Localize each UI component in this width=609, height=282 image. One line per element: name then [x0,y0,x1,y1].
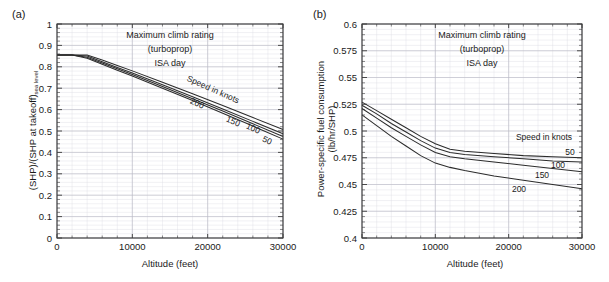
y-tick-label: 0.1 [39,211,52,222]
y-axis-title-b: Power-specific fuel consumption (lb/hr/S… [315,29,337,229]
x-tick-label: 20000 [495,241,521,252]
y-tick-label: 0.5 [39,126,52,137]
y-tick-label: 0.55 [339,72,358,83]
y-tick-label: 0.4 [39,147,52,158]
chart-annotation: ISA day [154,58,186,68]
series-label-150: 150 [535,170,549,180]
y-axis-title-a-subscript: sea level [33,71,39,95]
series-label-100: 100 [551,160,565,170]
x-tick-label: 20000 [194,241,220,252]
chart-panel-a: (a) Maximum climb rating(turboprop)ISA d… [0,0,305,282]
x-axis-title-a: Altitude (feet) [57,258,283,269]
series-label-50: 50 [565,147,575,157]
x-tick-label: 30000 [569,241,595,252]
y-tick-label: 0.45 [339,179,358,190]
y-tick-label: 0.6 [39,104,52,115]
x-tick-label: 10000 [422,241,448,252]
y-axis-title-b-line2: (lb/hr/SHP) [326,29,337,229]
chart-annotation: (turboprop) [460,44,505,54]
y-tick-label: 0.7 [39,83,52,94]
y-tick-label: 0.3 [39,168,52,179]
series-label-100: 100 [245,121,262,136]
y-tick-label: 1 [47,19,52,30]
y-tick-label: 0.6 [344,19,357,30]
y-tick-label: 0.2 [39,190,52,201]
x-tick-label: 10000 [119,241,145,252]
y-tick-label: 0.9 [39,40,52,51]
x-tick-label: 0 [54,241,59,252]
x-axis-title-b: Altitude (feet) [362,258,588,269]
y-axis-title-a: (SHP)/(SHP at takeoff)sea level [27,35,40,225]
chart-annotation: Maximum climb rating [126,30,214,40]
y-axis-title-b-line1: Power-specific fuel consumption [315,29,326,229]
x-tick-label: 30000 [270,241,296,252]
y-tick-label: 0.5 [344,126,357,137]
chart-annotation: ISA day [466,58,498,68]
series-label-200: 200 [512,184,526,194]
chart-annotation: (turboprop) [148,44,193,54]
plot-area-a: Maximum climb rating(turboprop)ISA day01… [0,0,305,282]
legend-title-b: Speed in knots [516,132,572,142]
x-tick-label: 0 [359,241,364,252]
series-label-50: 50 [261,134,274,147]
plot-area-b: Maximum climb rating(turboprop)ISA day01… [304,0,609,282]
chart-annotation: Maximum climb rating [438,30,526,40]
y-axis-title-a-main: (SHP)/(SHP at takeoff) [27,94,38,190]
chart-panel-b: (b) Maximum climb rating(turboprop)ISA d… [304,0,609,282]
y-tick-label: 0 [47,233,52,244]
y-tick-label: 0.4 [344,233,357,244]
y-tick-label: 0.8 [39,61,52,72]
